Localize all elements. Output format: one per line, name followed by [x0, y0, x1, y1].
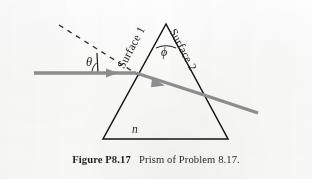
figure-caption: Figure P8.17 Prism of Problem 8.17.: [0, 154, 312, 165]
prism-diagram: [0, 0, 312, 179]
exit-ray: [207, 96, 258, 113]
figure-container: Surface 1 Surface 2 θ ϕ n Figure P8.17 P…: [0, 0, 312, 179]
apex-angle-label: ϕ: [161, 46, 167, 58]
internal-refracted-ray: [136, 73, 207, 96]
caption-figure-number: Figure P8.17: [72, 154, 131, 165]
normal-tick-mark: [97, 53, 98, 74]
incidence-angle-label: θ: [86, 56, 92, 69]
refractive-index-label: n: [132, 124, 138, 136]
caption-description: Prism of Problem 8.17.: [139, 154, 240, 165]
incident-ray-arrowhead: [106, 68, 118, 77]
